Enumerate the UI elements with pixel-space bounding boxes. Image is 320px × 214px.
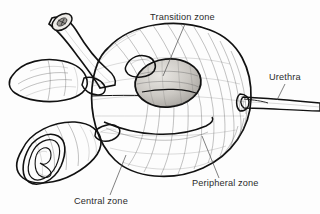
leader-central-zone (110, 155, 126, 195)
leader-peripheral-zone (202, 136, 219, 178)
vas-deferens (49, 10, 116, 88)
leader-urethra (277, 84, 285, 100)
leader-lines (110, 24, 285, 195)
urethra-tube (237, 94, 320, 111)
label-urethra: Urethra (269, 72, 301, 82)
label-peripheral-zone: Peripheral zone (192, 178, 259, 188)
transition-zone-lobe (125, 55, 203, 110)
anatomy-illustration: Transition zone Urethra Peripheral zone … (0, 0, 320, 214)
prostate-anatomy-figure: Transition zone Urethra Peripheral zone … (0, 0, 320, 214)
seminal-vesicle-lower (17, 122, 120, 184)
label-transition-zone: Transition zone (150, 12, 215, 22)
label-central-zone: Central zone (74, 196, 128, 206)
